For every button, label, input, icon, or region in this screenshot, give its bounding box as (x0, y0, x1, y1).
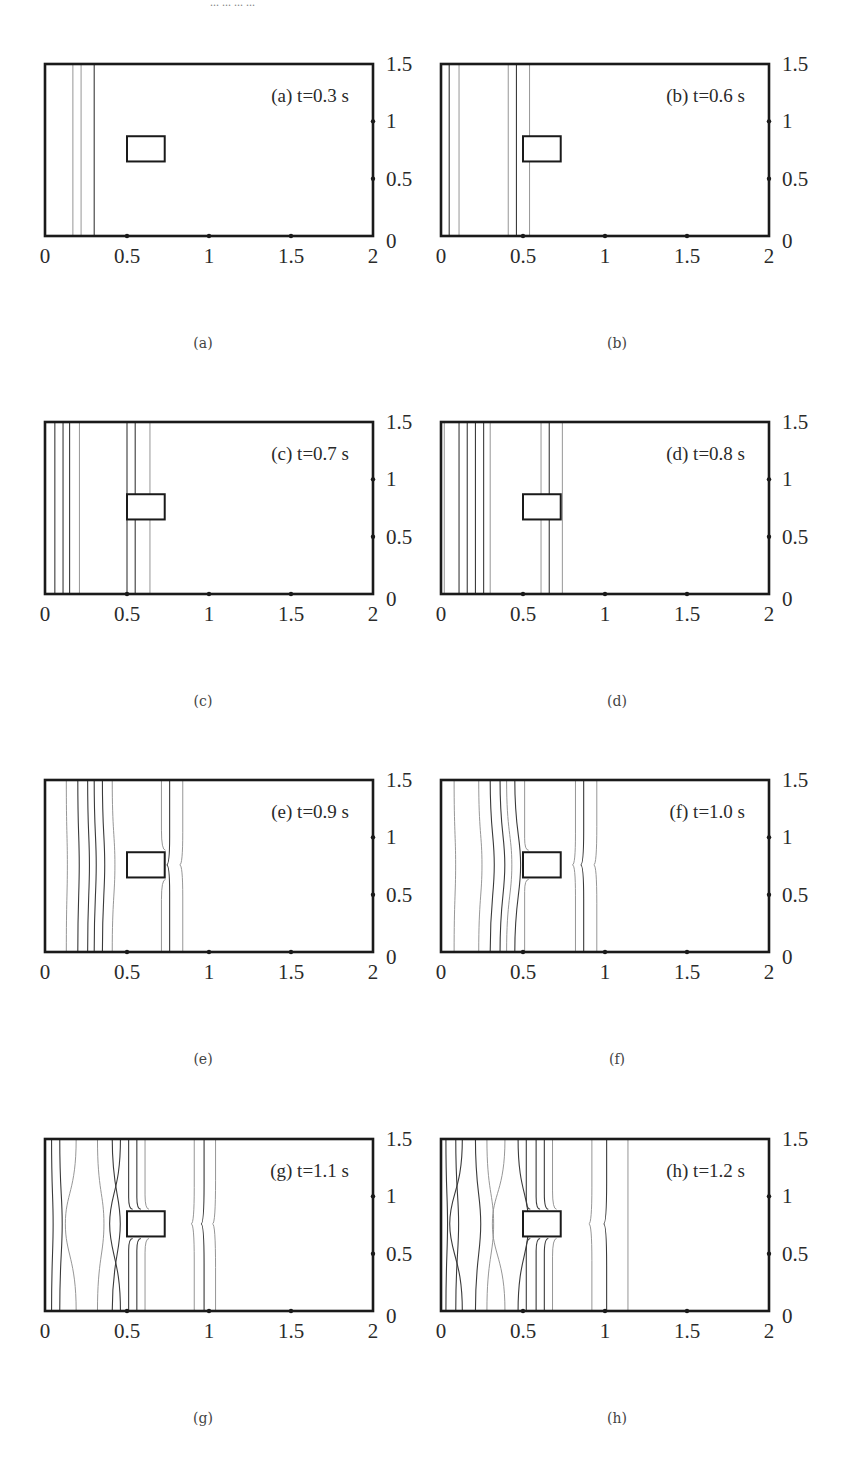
panel-caption: (d) (607, 693, 627, 709)
x-tick-mark (125, 592, 129, 596)
obstacle-rect (127, 852, 165, 877)
panel-caption: (h) (607, 1410, 627, 1426)
x-tick-label: 1 (600, 1319, 611, 1343)
x-tick-label: 2 (764, 1319, 775, 1343)
panel-annotation: (d) t=0.8 s (666, 443, 745, 465)
x-tick-label: 1 (600, 960, 611, 984)
y-tick-mark (767, 534, 771, 538)
cropped-header-text: ... ... ... ... (210, 0, 255, 9)
y-tick-mark (371, 835, 375, 839)
y-tick-label: 1.5 (782, 410, 808, 434)
panel-c: 00.511.5200.511.5(c) t=0.7 s(c) (40, 410, 413, 709)
x-tick-mark (603, 592, 607, 596)
y-tick-mark (371, 176, 375, 180)
y-tick-label: 0 (782, 945, 793, 969)
x-tick-label: 0.5 (510, 244, 536, 268)
x-tick-mark (685, 1309, 689, 1313)
obstacle-rect (127, 136, 165, 161)
contour-line (515, 780, 521, 952)
x-tick-label: 1.5 (674, 960, 700, 984)
x-tick-mark (207, 234, 211, 238)
x-tick-mark (603, 950, 607, 954)
y-tick-label: 0.5 (782, 167, 808, 191)
y-tick-mark (767, 1251, 771, 1255)
x-tick-label: 1.5 (278, 1319, 304, 1343)
panel-b: 00.511.5200.511.5(b) t=0.6 s(b) (436, 52, 809, 351)
panel-h: 00.511.5200.511.5(h) t=1.2 s(h) (436, 1127, 809, 1426)
y-tick-label: 1.5 (386, 410, 412, 434)
figure-canvas: ... ... ... ... 00.511.5200.511.5(a) t=0… (0, 0, 857, 1482)
contour-line (65, 1139, 76, 1311)
obstacle-rect (523, 494, 561, 519)
panel-annotation: (h) t=1.2 s (666, 1160, 745, 1182)
contour-line (213, 1139, 216, 1311)
x-tick-mark (521, 592, 525, 596)
x-tick-label: 0.5 (114, 602, 140, 626)
x-tick-label: 0 (40, 602, 51, 626)
contour-line (500, 780, 505, 952)
x-tick-label: 0 (436, 1319, 447, 1343)
y-tick-mark (767, 835, 771, 839)
y-tick-mark (767, 1194, 771, 1198)
x-tick-label: 1 (204, 1319, 215, 1343)
y-tick-label: 1 (782, 109, 793, 133)
x-tick-label: 1 (600, 244, 611, 268)
obstacle-rect (523, 852, 561, 877)
panel-a: 00.511.5200.511.5(a) t=0.3 s(a) (40, 52, 413, 351)
x-tick-label: 0 (436, 960, 447, 984)
y-tick-label: 1 (782, 825, 793, 849)
y-tick-mark (767, 176, 771, 180)
y-tick-label: 0.5 (782, 525, 808, 549)
contour-line (52, 1139, 54, 1311)
y-tick-label: 0.5 (386, 525, 412, 549)
contour-line (112, 780, 115, 952)
y-tick-label: 1 (386, 467, 397, 491)
y-tick-mark (767, 119, 771, 123)
x-tick-mark (685, 234, 689, 238)
panel-g: 00.511.5200.511.5(g) t=1.1 s(g) (40, 1127, 413, 1426)
x-tick-label: 0.5 (114, 960, 140, 984)
panel-f: 00.511.5200.511.5(f) t=1.0 s(f) (436, 768, 809, 1067)
x-tick-mark (603, 234, 607, 238)
x-tick-label: 2 (368, 602, 379, 626)
obstacle-rect (127, 494, 165, 519)
x-tick-mark (125, 234, 129, 238)
x-tick-mark (289, 950, 293, 954)
panel-caption: (f) (609, 1051, 625, 1067)
y-tick-label: 1.5 (386, 52, 412, 76)
x-tick-mark (125, 950, 129, 954)
panel-annotation: (f) t=1.0 s (669, 801, 745, 823)
x-tick-label: 2 (764, 244, 775, 268)
contour-line (167, 780, 170, 952)
y-tick-label: 0 (782, 587, 793, 611)
y-tick-label: 1 (386, 109, 397, 133)
panel-annotation: (g) t=1.1 s (270, 1160, 349, 1182)
x-tick-mark (289, 592, 293, 596)
panel-caption: (a) (193, 335, 212, 351)
x-tick-mark (603, 1309, 607, 1313)
x-tick-mark (207, 950, 211, 954)
y-tick-label: 0 (386, 587, 397, 611)
contour-line (475, 1139, 480, 1311)
y-tick-label: 1.5 (386, 1127, 412, 1151)
contour-line (201, 1139, 204, 1311)
y-tick-label: 0 (782, 229, 793, 253)
x-tick-label: 0 (436, 244, 447, 268)
x-tick-label: 2 (368, 1319, 379, 1343)
x-tick-label: 1.5 (674, 244, 700, 268)
panel-d: 00.511.5200.511.5(d) t=0.8 s(d) (436, 410, 809, 709)
y-tick-label: 0.5 (386, 1242, 412, 1266)
y-tick-mark (371, 1251, 375, 1255)
y-tick-label: 1.5 (386, 768, 412, 792)
panel-e: 00.511.5200.511.5(e) t=0.9 s(e) (40, 768, 413, 1067)
contour-line (180, 780, 183, 952)
x-tick-label: 2 (368, 244, 379, 268)
contour-line (66, 780, 67, 952)
x-tick-label: 1 (600, 602, 611, 626)
x-tick-label: 0 (40, 244, 51, 268)
x-tick-mark (685, 592, 689, 596)
x-tick-mark (125, 1309, 129, 1313)
y-tick-mark (767, 892, 771, 896)
x-tick-label: 0 (436, 602, 447, 626)
y-tick-label: 0 (386, 1304, 397, 1328)
